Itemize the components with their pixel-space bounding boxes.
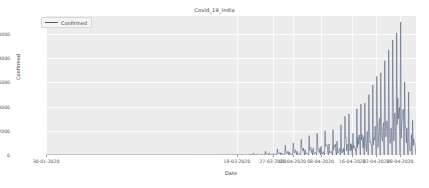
series-line-confirmed — [46, 22, 416, 155]
x-tick-label: 08-04-2020 — [307, 159, 334, 164]
legend-label-confirmed: Confirmed — [61, 20, 87, 26]
x-tick-mark — [352, 155, 353, 157]
x-tick-mark — [321, 155, 322, 157]
x-tick-mark — [273, 155, 274, 157]
x-tick-label: 22-04-2020 — [363, 159, 390, 164]
x-tick-mark — [376, 155, 377, 157]
y-axis-label: Confirmed — [15, 27, 21, 107]
x-tick-label: 01-04-2020 — [279, 159, 306, 164]
y-tick-label: 4000 — [0, 104, 10, 109]
x-tick-label: 28-04-2020 — [387, 159, 414, 164]
series-confirmed — [46, 16, 416, 155]
x-tick-mark — [400, 155, 401, 157]
y-tick-label: 0 — [0, 153, 10, 158]
y-tick-label: 10000 — [0, 32, 10, 37]
chart-figure: Covid_19_India Confirmed 020004000600080… — [0, 0, 429, 188]
y-tick-label: 6000 — [0, 80, 10, 85]
chart-legend[interactable]: Confirmed — [41, 17, 92, 28]
x-axis-label: Date — [46, 170, 416, 176]
x-tick-label: 30-01-2020 — [33, 159, 60, 164]
x-tick-label: 18-03-2020 — [224, 159, 251, 164]
y-tick-label: 2000 — [0, 128, 10, 133]
plot-area — [46, 16, 416, 155]
x-tick-mark — [293, 155, 294, 157]
x-tick-label: 16-04-2020 — [339, 159, 366, 164]
x-tick-mark — [237, 155, 238, 157]
y-tick-label: 8000 — [0, 56, 10, 61]
x-tick-mark — [46, 155, 47, 157]
chart-title: Covid_19_India — [0, 7, 429, 13]
legend-swatch-confirmed — [45, 22, 58, 23]
